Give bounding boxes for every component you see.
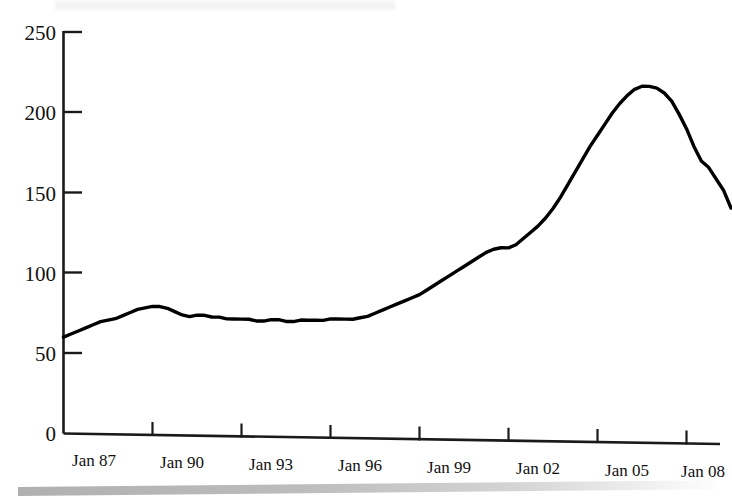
y-tick-label-0: 0 [46, 422, 57, 446]
data-series-line [64, 86, 732, 337]
y-tick-label-250: 250 [25, 21, 57, 45]
y-tick-label-200: 200 [25, 101, 57, 125]
x-tick-label-jan87: Jan 87 [72, 451, 116, 470]
y-tick-marks [64, 32, 83, 353]
y-tick-label-50: 50 [35, 342, 56, 366]
x-tick-label-jan02: Jan 02 [516, 459, 560, 478]
y-tick-label-150: 150 [25, 182, 57, 206]
chart-figure: 250 200 150 100 50 0 Jan 87 Jan 90 Jan 9… [0, 0, 732, 503]
x-tick-label-jan99: Jan 99 [427, 458, 471, 477]
x-tick-label-jan96: Jan 96 [338, 456, 382, 475]
y-tick-label-100: 100 [25, 262, 57, 286]
line-chart: 250 200 150 100 50 0 Jan 87 Jan 90 Jan 9… [0, 0, 732, 503]
x-tick-label-jan90: Jan 90 [160, 453, 204, 472]
x-tick-label-jan93: Jan 93 [249, 455, 293, 474]
x-tick-label-jan05: Jan 05 [605, 461, 649, 480]
x-axis-line [64, 434, 721, 445]
x-tick-label-jan08: Jan 08 [681, 462, 725, 481]
